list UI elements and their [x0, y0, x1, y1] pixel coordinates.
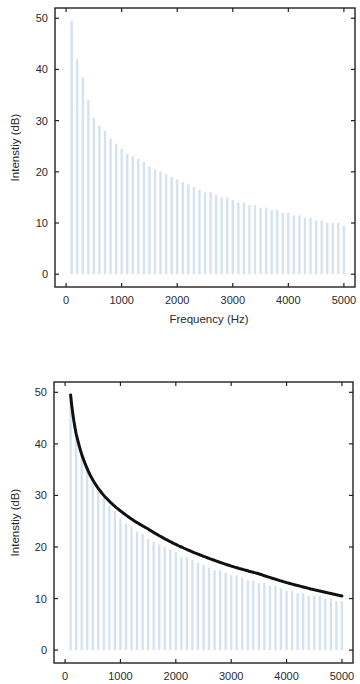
bar [285, 591, 287, 650]
bar [254, 205, 256, 274]
y-tick-label: 40 [36, 63, 48, 75]
x-axis-label: Frequency (Hz) [169, 313, 248, 325]
bar [298, 215, 300, 274]
bar [92, 483, 94, 651]
chart-bottom-spectrum-with-envelope: 01000200030004000500001020304050Intensti… [0, 370, 360, 684]
bar [109, 139, 111, 275]
bar [197, 562, 199, 650]
x-tick-label: 5000 [330, 670, 354, 682]
bar [341, 601, 343, 650]
bar [324, 599, 326, 651]
bar [293, 215, 295, 274]
bar [193, 187, 195, 274]
x-tick-label: 0 [62, 670, 68, 682]
x-tick-label: 1000 [109, 294, 133, 306]
bar [204, 192, 206, 274]
bar [115, 144, 117, 275]
bar [137, 159, 139, 274]
chart-bottom-svg: 01000200030004000500001020304050Intensti… [0, 370, 360, 684]
bar [280, 588, 282, 650]
bar [202, 565, 204, 650]
y-axis-label: Intenstiy (dB) [9, 488, 21, 556]
x-tick-label: 4000 [274, 670, 298, 682]
x-tick-label: 4000 [276, 294, 300, 306]
bar [263, 583, 265, 650]
bar [87, 100, 89, 274]
bar [158, 544, 160, 650]
bar [126, 154, 128, 274]
bar [287, 213, 289, 274]
bar [276, 210, 278, 274]
bar [241, 578, 243, 650]
y-tick-label: 0 [41, 644, 47, 656]
bar [130, 526, 132, 650]
x-tick-label: 2000 [164, 670, 188, 682]
bar [219, 570, 221, 650]
bar [165, 174, 167, 274]
bar [232, 200, 234, 274]
bar [114, 511, 116, 650]
bar [82, 77, 84, 274]
bar [291, 591, 293, 650]
bar [159, 172, 161, 274]
y-tick-label: 30 [36, 115, 48, 127]
bar [213, 570, 215, 650]
y-tick-label: 10 [35, 593, 47, 605]
y-axis-label: Intenstiy (dB) [9, 113, 21, 181]
bar [296, 593, 298, 650]
bar [330, 599, 332, 651]
bar [154, 169, 156, 274]
bar [243, 203, 245, 275]
bar [169, 550, 171, 651]
bar [230, 575, 232, 650]
bar [252, 581, 254, 651]
bar [132, 156, 134, 274]
bar [209, 192, 211, 274]
bar [308, 596, 310, 650]
x-tick-label: 3000 [219, 670, 243, 682]
bar [148, 167, 150, 275]
bar [319, 596, 321, 650]
bar [125, 524, 127, 650]
bar [313, 596, 315, 650]
bar [304, 218, 306, 274]
bar [332, 223, 334, 274]
bar [315, 220, 317, 274]
x-tick-label: 5000 [332, 294, 356, 306]
bar [258, 583, 260, 650]
bar [103, 498, 105, 650]
chart-top-svg: 01000200030004000500001020304050Intensti… [0, 0, 360, 330]
y-tick-label: 50 [35, 386, 47, 398]
bar [136, 532, 138, 651]
bar [119, 519, 121, 650]
bar [265, 208, 267, 275]
bar [335, 601, 337, 650]
y-tick-label: 30 [35, 489, 47, 501]
bar [270, 210, 272, 274]
bar [75, 434, 77, 651]
bar [164, 547, 166, 650]
bar [224, 573, 226, 650]
bar [247, 581, 249, 651]
bar [152, 542, 154, 650]
y-tick-label: 50 [36, 12, 48, 24]
bar [97, 490, 99, 650]
bar [282, 213, 284, 274]
bar [186, 557, 188, 650]
bar [176, 179, 178, 274]
bar [198, 190, 200, 274]
x-tick-label: 3000 [221, 294, 245, 306]
bar [320, 220, 322, 274]
bar [175, 552, 177, 650]
bar [302, 593, 304, 650]
x-tick-label: 2000 [165, 294, 189, 306]
bar [215, 195, 217, 274]
y-tick-label: 0 [42, 268, 48, 280]
bar [69, 397, 71, 650]
bar [70, 21, 72, 274]
chart-top-spectrum: 01000200030004000500001020304050Intensti… [0, 0, 360, 330]
y-tick-label: 20 [36, 166, 48, 178]
bar [141, 534, 143, 650]
bar [76, 59, 78, 274]
bar [182, 182, 184, 274]
